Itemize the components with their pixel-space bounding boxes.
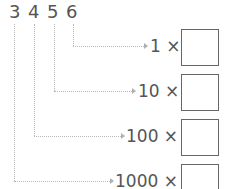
connector-ones-horizontal — [73, 46, 144, 47]
connector-thousands-horizontal — [14, 181, 110, 182]
multiplier-label-100: 100 × — [126, 128, 178, 145]
digit-thousands: 3 — [9, 3, 20, 21]
answer-box-hundreds[interactable] — [181, 119, 219, 156]
connector-tens-horizontal — [54, 91, 132, 92]
arrow-tens-icon — [132, 88, 136, 94]
multiplier-label-10: 10 × — [138, 83, 179, 100]
digit-hundreds: 4 — [28, 3, 39, 21]
arrow-ones-icon — [144, 43, 148, 49]
arrow-hundreds-icon — [121, 133, 125, 139]
multiplier-label-1: 1 × — [150, 38, 180, 55]
digit-ones: 6 — [66, 3, 77, 21]
connector-hundreds-vertical — [34, 24, 35, 136]
connector-ones-vertical — [73, 24, 74, 46]
digit-tens: 5 — [47, 3, 58, 21]
connector-tens-vertical — [54, 24, 55, 91]
connector-hundreds-horizontal — [34, 136, 121, 137]
arrow-thousands-icon — [110, 178, 114, 184]
answer-box-ones[interactable] — [181, 29, 219, 66]
answer-box-tens[interactable] — [181, 74, 219, 111]
multiplier-label-1000: 1000 × — [115, 173, 178, 189]
connector-thousands-vertical — [14, 24, 15, 181]
answer-box-thousands[interactable] — [181, 164, 219, 189]
